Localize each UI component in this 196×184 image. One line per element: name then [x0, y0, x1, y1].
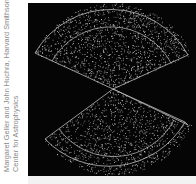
credit-text-block: Margaret Geller and John Huchra, Harvard…: [2, 0, 28, 176]
bottom-wedge-outline-right: [113, 89, 185, 122]
credit-line-1: Margaret Geller and John Huchra, Harvard…: [2, 0, 11, 172]
image-credit: Margaret Geller and John Huchra, Harvard…: [2, 0, 28, 176]
galaxy-wedge-plot: [28, 3, 196, 176]
survey-map-image: [28, 3, 196, 176]
cropped-caption-strip: [28, 176, 196, 184]
credit-line-2: Center for Astrophysics: [11, 0, 20, 172]
